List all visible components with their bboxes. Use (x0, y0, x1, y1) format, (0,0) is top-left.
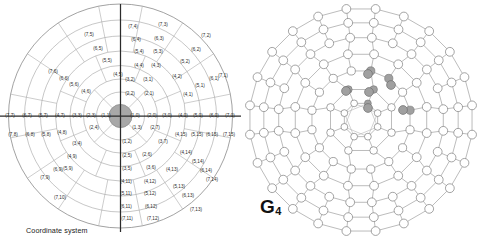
graph-node (268, 184, 277, 193)
graph-node (253, 158, 262, 167)
graph-node (364, 133, 371, 140)
graph-node (259, 103, 268, 112)
sector-label: (4,3) (151, 64, 160, 69)
graph-node (388, 39, 397, 48)
graph-node (344, 213, 353, 222)
sector-label: (5,1) (195, 84, 204, 89)
graph-node (253, 73, 262, 82)
sector-label: (4,7) (55, 114, 64, 119)
graph-node (274, 126, 283, 135)
graph-node (319, 25, 328, 34)
graph-node (407, 181, 416, 190)
sector-label: (7,9) (40, 176, 49, 181)
sector-label: (6,0) (209, 114, 218, 119)
graph-node (315, 88, 323, 96)
sector-label: (7,11) (121, 217, 133, 222)
sector-label: (6,8) (25, 133, 34, 138)
graph-node (370, 181, 379, 190)
sector-label: (3,7) (158, 140, 167, 145)
sector-label: (7,8) (8, 133, 17, 138)
sector-label: (5,13) (173, 185, 185, 190)
graph-node (371, 5, 380, 14)
graph-node (425, 27, 434, 36)
graph-node (327, 129, 335, 137)
graph-node (306, 50, 315, 59)
sector-label: (5,12) (144, 192, 156, 197)
graph-node (314, 12, 323, 21)
graph-node (468, 130, 477, 139)
sector-label: (6,3) (154, 37, 163, 42)
graph-node (344, 181, 353, 190)
graph-node (385, 157, 393, 165)
graph-node (422, 103, 431, 112)
sector-label: (7,1) (218, 74, 227, 79)
sector-label: (5,9) (63, 167, 72, 172)
sector-label: (7,15) (223, 133, 235, 138)
sector-label: (2,0) (147, 114, 156, 119)
graph-node (369, 213, 378, 222)
sector-label: (4,12) (144, 180, 156, 185)
sector-label: (3,4) (72, 142, 81, 147)
graph-node (308, 126, 316, 134)
graph-node (319, 206, 328, 215)
sector-label: (2,2) (125, 92, 134, 97)
graph-node (347, 165, 355, 173)
figure-root: (7,4)(7,3)(7,5)(7,2)(6,4)(6,3)(6,5)(6,2)… (0, 0, 482, 248)
graph-node (291, 65, 300, 74)
sector-label: (3,5) (122, 167, 131, 172)
sector-label: (5,6) (69, 83, 78, 88)
sector-label: (4,14) (180, 151, 192, 156)
sector-label: (5,14) (192, 160, 204, 165)
graph-node (306, 181, 315, 190)
graph-node (398, 88, 406, 96)
graph-node (288, 27, 297, 36)
graph-node (279, 56, 288, 65)
graph-caption-letter: G (260, 196, 275, 217)
sector-label: (4,8) (57, 131, 66, 136)
graph-node (374, 110, 381, 117)
graph-node (394, 171, 403, 180)
sector-label: (6,7) (22, 114, 31, 119)
sector-label: (4,13) (166, 168, 178, 173)
graph-node (291, 103, 300, 112)
graph-node (266, 78, 275, 87)
sector-label: (1,0) (130, 114, 139, 119)
graph-node (329, 74, 337, 82)
graph-node (399, 12, 408, 21)
sector-label: (7,10) (54, 196, 66, 201)
graph-node (447, 153, 456, 162)
graph-node-highlighted (365, 88, 374, 97)
graph-node (445, 47, 454, 56)
sector-label: (5,2) (180, 60, 189, 65)
graph-node (315, 144, 323, 152)
sector-label: (6,13) (182, 194, 194, 199)
graph-node (367, 33, 376, 42)
sector-label: (6,9) (53, 168, 62, 173)
sector-label: (2,4) (89, 126, 98, 131)
graph-node (288, 204, 297, 213)
sector-label: (4,6) (81, 90, 90, 95)
graph-node (416, 193, 425, 202)
sector-label: (3,0) (162, 114, 171, 119)
graph-node (344, 50, 353, 59)
graph-node (399, 219, 408, 228)
sector-label: (2,5) (122, 154, 131, 159)
graph-node (388, 129, 396, 137)
graph-node (301, 78, 310, 87)
graph-node (445, 184, 454, 193)
graph-node (460, 158, 469, 167)
graph-node (280, 147, 289, 156)
graph-node (370, 50, 379, 59)
graph-node-highlighted (342, 87, 351, 96)
graph-node (347, 67, 355, 75)
sector-label: (6,14) (200, 169, 212, 174)
graph-node (407, 50, 416, 59)
graph-caption: G4 (260, 196, 282, 218)
sector-label: (5,8) (41, 133, 50, 138)
graph-node (341, 123, 348, 130)
graph-node (291, 166, 300, 175)
sector-label: (4,11) (120, 180, 132, 185)
sector-label: (3,1) (143, 78, 152, 83)
graph-node (344, 18, 353, 27)
graph-node (439, 126, 448, 135)
